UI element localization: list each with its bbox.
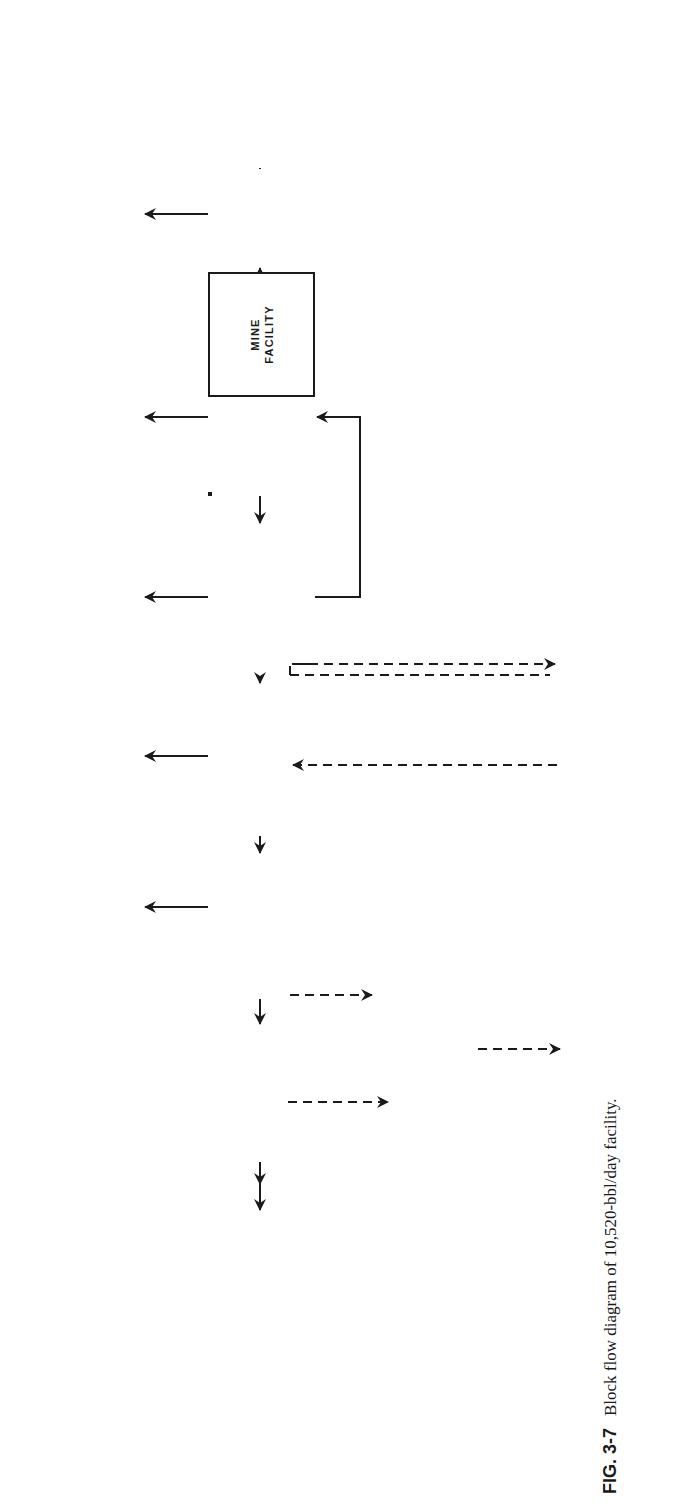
figure-number: FIG. 3-7 [600,1428,620,1494]
block-mine-facility: MINE FACILITY [208,272,315,397]
figure-caption-text: Block flow diagram of 10,520-bbl/day fac… [601,1098,620,1416]
connector-lines [0,0,687,1504]
block-flow-diagram: MINE FACILITY FIG. 3-7Block flow diagram… [0,0,687,1504]
figure-caption: FIG. 3-7Block flow diagram of 10,520-bbl… [600,1098,621,1494]
dashed-arrow-oilgas-to-cos [290,664,555,675]
arrow-recycle-gas [315,417,360,597]
